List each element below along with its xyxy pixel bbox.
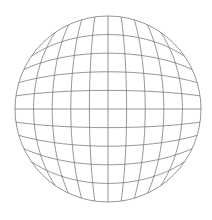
spherized-grid-figure: [0, 0, 212, 220]
sphere-grid-diagram: [0, 0, 212, 220]
